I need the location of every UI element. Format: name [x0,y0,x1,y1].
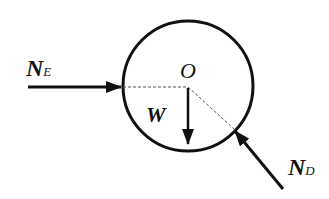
radius-dashed-diagonal [188,87,234,129]
label-nd: ND [288,155,315,179]
ne-symbol: N [26,55,43,81]
nd-symbol: N [288,154,305,180]
diagram-canvas [0,0,329,199]
force-arrow-nd [235,131,283,189]
label-ne: NE [26,56,51,80]
label-w: W [146,104,166,126]
ne-subscript: E [43,64,51,79]
nd-subscript: D [305,163,314,178]
label-center-o: O [180,60,196,82]
force-diagram: NE O W ND [0,0,329,199]
